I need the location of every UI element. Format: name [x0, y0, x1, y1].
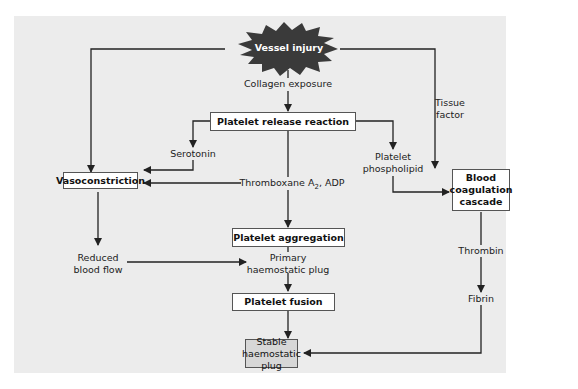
fibrin-label: Fibrin [468, 293, 494, 305]
tissue-factor-line2: factor [435, 109, 465, 121]
phospholipid-line2: phospholipid [363, 163, 424, 175]
coagulation-cascade-node: Blood coagulation cascade [452, 169, 510, 211]
collagen-exposure-label: Collagen exposure [244, 78, 332, 90]
tissue-factor-line1: Tissue [435, 97, 465, 109]
thrombin-label: Thrombin [458, 245, 503, 257]
primary-plug-label: Primary haemostatic plug [247, 252, 330, 276]
coagulation-line2: coagulation [450, 184, 513, 196]
reduced-flow-line2: blood flow [74, 264, 123, 276]
thromboxane-text: Thromboxane A [239, 177, 314, 188]
stable-plug-line2: haemostatic plug [242, 348, 301, 372]
stable-plug-line1: Stable [256, 336, 286, 348]
reduced-blood-flow-label: Reduced blood flow [74, 252, 123, 276]
primary-plug-line2: haemostatic plug [247, 264, 330, 276]
platelet-release-node: Platelet release reaction [210, 112, 356, 131]
tissue-factor-label: Tissue factor [435, 97, 465, 121]
platelet-fusion-node: Platelet fusion [232, 293, 335, 311]
coagulation-line3: cascade [460, 196, 503, 208]
phospholipid-line1: Platelet [363, 151, 424, 163]
thromboxane-label: Thromboxane A2, ADP [239, 177, 344, 193]
platelet-phospholipid-label: Platelet phospholipid [363, 151, 424, 175]
vasoconstriction-node: Vasoconstriction [63, 172, 138, 189]
stable-haemostatic-plug-node: Stable haemostatic plug [245, 339, 298, 368]
serotonin-label: Serotonin [170, 148, 216, 160]
reduced-flow-line1: Reduced [74, 252, 123, 264]
coagulation-line1: Blood [466, 172, 496, 184]
vessel-injury-node: Vessel injury [250, 42, 328, 53]
platelet-aggregation-node: Platelet aggregation [232, 228, 345, 247]
thromboxane-tail: , ADP [319, 177, 345, 188]
primary-plug-line1: Primary [247, 252, 330, 264]
